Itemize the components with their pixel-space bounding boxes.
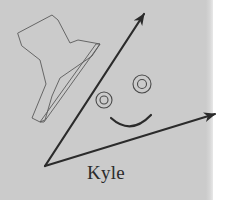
name-caption: Kyle [0,162,212,184]
caption-layer: Kyle [0,0,235,200]
sketch-canvas: Kyle [0,0,235,200]
